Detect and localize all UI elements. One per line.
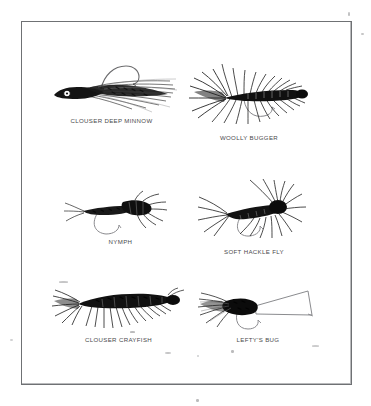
fly-label-clouser-crayfish: CLOUSER CRAYFISH <box>52 336 185 344</box>
fly-cell-soft-hackle-fly: SOFT HACKLE FLY <box>196 178 312 256</box>
fly-illustration-clouser-deep-minnow <box>44 55 179 117</box>
nymph-fly-icon <box>64 191 167 234</box>
scan-speck <box>165 352 171 354</box>
fly-illustration-nymph <box>63 190 178 238</box>
fly-cell-woolly-bugger: WOOLLY BUGGER <box>186 52 312 142</box>
scan-speck <box>312 345 319 347</box>
fly-cell-nymph: NYMPH <box>63 190 178 246</box>
crayfish-fly-icon <box>52 288 184 328</box>
scan-speck <box>130 331 135 333</box>
popper-bug-fly-icon <box>198 291 313 329</box>
fly-cell-clouser-deep-minnow: CLOUSER DEEP MINNOW <box>44 55 179 125</box>
fly-label-soft-hackle-fly: SOFT HACKLE FLY <box>196 248 312 256</box>
soft-hackle-fly-icon <box>198 179 306 238</box>
scan-speck <box>196 399 199 402</box>
fly-illustration-woolly-bugger <box>186 52 312 134</box>
fly-illustration-clouser-crayfish <box>52 288 185 336</box>
fly-label-nymph: NYMPH <box>63 238 178 246</box>
scan-speck <box>361 33 364 35</box>
fly-cell-clouser-crayfish: CLOUSER CRAYFISH <box>52 288 185 344</box>
fly-label-clouser-deep-minnow: CLOUSER DEEP MINNOW <box>44 117 179 125</box>
fly-cell-leftys-bug: LEFTY'S BUG <box>196 288 320 344</box>
scan-speck <box>231 350 234 353</box>
fly-label-leftys-bug: LEFTY'S BUG <box>196 336 320 344</box>
scan-speck <box>10 339 13 341</box>
fly-illustration-soft-hackle-fly <box>196 178 312 248</box>
fly-label-woolly-bugger: WOOLLY BUGGER <box>186 134 312 142</box>
page-canvas: CLOUSER DEEP MINNOW <box>0 0 371 406</box>
hackled-streamer-fly-icon <box>189 64 308 124</box>
scan-speck <box>59 281 68 283</box>
streamer-fly-icon <box>54 66 177 112</box>
scan-speck <box>348 12 350 16</box>
scan-speck <box>197 355 199 357</box>
fly-illustration-leftys-bug <box>196 288 320 336</box>
